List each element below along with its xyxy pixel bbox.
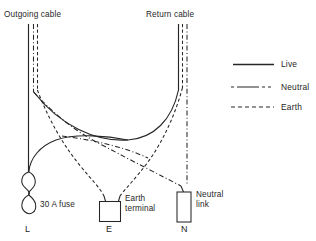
- legend-label-earth: Earth: [281, 103, 302, 113]
- label-neutral-link-line1: Neutral: [196, 190, 223, 199]
- live-conductor-curve: [34, 90, 179, 140]
- wiring-diagram: Outgoing cable Return cable 30 A fuse Ea…: [0, 0, 316, 241]
- neutral-link-lug: [181, 186, 184, 192]
- live-conductor-to-fuse: [29, 136, 128, 172]
- earth-terminal-lug-right: [118, 196, 120, 202]
- node-label-e: E: [106, 225, 112, 235]
- legend-label-live: Live: [281, 60, 297, 70]
- earth-conductor-right-curve: [120, 88, 182, 196]
- legend-label-neutral: Neutral: [281, 83, 309, 93]
- label-earth-terminal-line2: terminal: [125, 204, 155, 213]
- fuse-coil-upper-loop: [22, 172, 30, 195]
- earth-terminal-box: [100, 202, 121, 222]
- label-neutral-link-line2: link: [196, 200, 209, 209]
- earth-terminal-lug-left: [104, 196, 106, 202]
- node-label-n: N: [181, 225, 188, 235]
- fuse-coil-lower-loop: [22, 195, 36, 214]
- label-outgoing-cable: Outgoing cable: [4, 10, 61, 20]
- label-return-cable: Return cable: [146, 10, 194, 20]
- label-30a-fuse: 30 A fuse: [40, 200, 75, 210]
- fuse-coil-upper-right: [29, 172, 36, 195]
- neutral-link-box: [177, 192, 191, 222]
- label-earth-terminal-line1: Earth: [125, 194, 145, 203]
- node-label-l: L: [25, 225, 30, 235]
- earth-conductor-left-curve: [37, 90, 104, 196]
